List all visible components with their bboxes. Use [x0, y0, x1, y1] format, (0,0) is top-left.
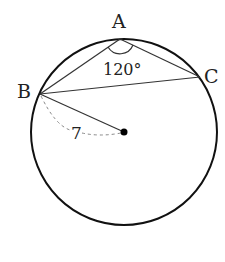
- radius-brace-dashed-right: [82, 133, 121, 135]
- radius-label: 7: [71, 123, 82, 143]
- label-a: A: [111, 10, 126, 32]
- label-b: B: [17, 80, 31, 102]
- angle-arc: [108, 45, 133, 54]
- radius-segment: [40, 94, 124, 132]
- label-c: C: [204, 65, 219, 87]
- angle-label: 120°: [103, 60, 142, 79]
- center-point: [121, 129, 128, 136]
- segment-bc: [40, 77, 200, 94]
- geometry-diagram: A B C 120° 7: [0, 0, 225, 262]
